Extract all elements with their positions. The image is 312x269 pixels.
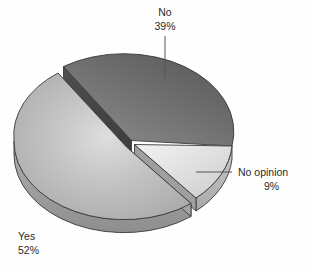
pie-chart-figure: No 39% No opinion 9% Yes 52% bbox=[0, 0, 312, 269]
label-no-name: No bbox=[158, 6, 172, 18]
label-yes-value: 52% bbox=[18, 244, 39, 256]
pie-chart-svg: No 39% No opinion 9% Yes 52% bbox=[0, 0, 312, 269]
label-no-value: 39% bbox=[154, 20, 175, 32]
label-yes-name: Yes bbox=[18, 230, 35, 242]
label-no-opinion-name: No opinion bbox=[238, 166, 288, 178]
label-no-opinion-value: 9% bbox=[264, 180, 279, 192]
